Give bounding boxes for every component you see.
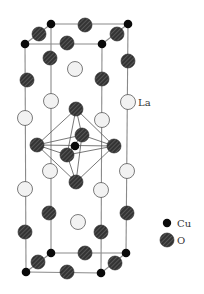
o-atom: [60, 36, 74, 50]
la-atom: [43, 164, 58, 179]
o-atom: [78, 18, 92, 32]
la-atom: [18, 182, 33, 197]
la-atom: [18, 111, 33, 126]
o-atom: [20, 73, 34, 87]
o-atom: [42, 206, 56, 220]
legend-cu-label: Cu: [177, 218, 192, 229]
o-atom: [30, 138, 44, 152]
o-atom: [31, 255, 45, 269]
la-atom: [120, 164, 135, 179]
o-atom: [95, 72, 109, 86]
la-atom: [94, 183, 109, 198]
cu-atom: [21, 40, 30, 49]
cu-atom: [97, 269, 106, 278]
cu-atom: [71, 142, 80, 151]
o-atom: [107, 139, 121, 153]
legend: Cu O: [160, 218, 192, 247]
o-atom: [32, 27, 46, 41]
la-atom: [95, 113, 110, 128]
cu-atom: [124, 20, 133, 29]
crystal-structure-diagram: La Cu O: [0, 0, 204, 294]
o-atom: [94, 225, 108, 239]
cu-atom: [47, 20, 56, 29]
la-atom: [44, 94, 59, 109]
o-atom: [110, 27, 124, 41]
o-atom: [120, 206, 134, 220]
o-atom: [75, 128, 89, 142]
legend-o-label: O: [177, 235, 185, 246]
o-atom: [60, 265, 74, 279]
o-atom: [43, 51, 57, 65]
cu-atom: [22, 268, 31, 277]
atoms: [18, 18, 136, 279]
la-atom: [121, 95, 136, 110]
o-atom: [108, 256, 122, 270]
legend-cu-icon: [163, 219, 171, 227]
la-atom: [71, 215, 86, 230]
legend-o-icon: [160, 233, 174, 247]
cu-atom: [98, 40, 107, 49]
o-atom: [18, 225, 32, 239]
la-label: La: [138, 97, 151, 108]
octahedron-edge: [76, 146, 114, 182]
la-atom: [68, 62, 83, 77]
cu-atom: [122, 249, 131, 258]
o-atom: [69, 102, 83, 116]
cu-atom: [47, 249, 56, 258]
o-atom: [69, 175, 83, 189]
o-atom: [78, 246, 92, 260]
o-atom: [60, 148, 74, 162]
o-atom: [121, 54, 135, 68]
